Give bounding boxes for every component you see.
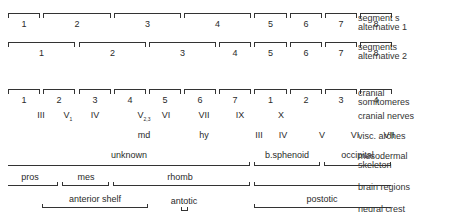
brain-span <box>8 182 58 186</box>
segments-alt2-label: alternative 2 <box>358 52 407 61</box>
cranial-nerve-label: IV <box>91 110 100 120</box>
somitomere-bracket <box>184 89 216 94</box>
mesodermal-skeleton-label: skeleton <box>358 161 392 170</box>
cranial-nerve-label: III <box>37 110 45 120</box>
segment-alt1-bracket <box>114 13 181 18</box>
segment-alt2-bracket <box>325 42 357 47</box>
segment-alt2-label: 1 <box>39 48 44 58</box>
brain-span-label: rhomb <box>167 172 193 182</box>
cranial-nerve-label: VI <box>162 110 171 120</box>
cranial-nerve-label: V2,3 <box>138 110 151 122</box>
segment-alt2-label: 4 <box>232 48 237 58</box>
somitomere-label: 7 <box>232 95 237 105</box>
neural-crest-row-label: neural crest <box>358 205 405 214</box>
visc-arch-label: III <box>255 130 263 140</box>
cranial-nerve-label: IX <box>236 110 245 120</box>
segment-alt2-bracket <box>290 42 322 47</box>
segment-alt1-label: 2 <box>74 19 79 29</box>
segment-alt1-label: 7 <box>338 19 343 29</box>
somitomere-label: 6 <box>197 95 202 105</box>
visc-arch-label: IV <box>279 130 288 140</box>
somitomere-label: 3 <box>92 95 97 105</box>
visc-arch-label: hy <box>199 130 209 140</box>
neural-crest-label: postotic <box>306 194 337 204</box>
neural-crest-span <box>42 204 148 208</box>
visc-arch-label: V <box>319 130 325 140</box>
segment-alt2-label: 5 <box>268 48 273 58</box>
somitomere-bracket <box>114 89 146 94</box>
visc-arches-label: visc. arches <box>358 132 406 141</box>
segment-alt1-bracket <box>325 13 357 18</box>
segment-alt1-label: 4 <box>215 19 220 29</box>
visc-arch-label: md <box>138 130 151 140</box>
somitomere-bracket <box>219 89 251 94</box>
segment-alt1-label: 5 <box>268 19 273 29</box>
somitomere-label: 2 <box>303 95 308 105</box>
segment-alt1-bracket <box>43 13 111 18</box>
somitomere-bracket <box>149 89 181 94</box>
somitomere-label: 3 <box>338 95 343 105</box>
segment-alt2-bracket <box>149 42 216 47</box>
somitomere-label: 1 <box>268 95 273 105</box>
neural-crest-label: antotic <box>171 196 198 206</box>
somitomere-bracket <box>254 89 287 94</box>
cranial-nerve-label: VII <box>198 110 209 120</box>
brain-regions-label: brain regions <box>358 183 410 192</box>
somitomere-label: 1 <box>21 95 26 105</box>
segment-alt1-bracket <box>8 13 40 18</box>
cranial-somitomeres-label: somitomeres <box>358 98 410 107</box>
segment-alt1-label: 6 <box>303 19 308 29</box>
segment-alt2-bracket <box>79 42 146 47</box>
neural-crest-span <box>181 207 188 211</box>
brain-span-label: mes <box>77 172 94 182</box>
somitomere-bracket <box>290 89 322 94</box>
somitomere-label: 2 <box>56 95 61 105</box>
segment-alt2-label: 7 <box>338 48 343 58</box>
brain-span-label: pros <box>21 172 39 182</box>
segment-alt2-label: 2 <box>110 48 115 58</box>
segment-alt2-label: 3 <box>180 48 185 58</box>
brain-span <box>62 182 109 186</box>
cranial-nerve-label: V1 <box>64 110 73 122</box>
segments-alt1-label: alternative 1 <box>358 23 407 32</box>
segment-alt1-bracket <box>290 13 322 18</box>
skeleton-span <box>254 162 320 166</box>
somitomere-bracket <box>325 89 357 94</box>
segment-alt2-bracket <box>8 42 75 47</box>
skeleton-span-label: b.sphenoid <box>265 150 309 160</box>
segment-alt1-label: 1 <box>21 19 26 29</box>
segment-alt1-bracket <box>254 13 287 18</box>
cranial-nerve-label: X <box>278 110 284 120</box>
brain-span <box>113 182 250 186</box>
neural-crest-label: anterior shelf <box>69 194 121 204</box>
somitomere-label: 4 <box>127 95 132 105</box>
segment-alt2-bracket <box>254 42 287 47</box>
segment-alt2-label: 6 <box>303 48 308 58</box>
segment-alt1-label: 3 <box>145 19 150 29</box>
somitomere-bracket <box>43 89 75 94</box>
cranial-nerves-label: cranial nerves <box>358 112 414 121</box>
somitomere-label: 5 <box>162 95 167 105</box>
skeleton-span <box>8 162 250 166</box>
segment-alt2-bracket <box>219 42 251 47</box>
segment-alt1-bracket <box>184 13 251 18</box>
somitomere-bracket <box>79 89 111 94</box>
somitomere-bracket <box>8 89 40 94</box>
skeleton-span-label: unknown <box>111 150 147 160</box>
